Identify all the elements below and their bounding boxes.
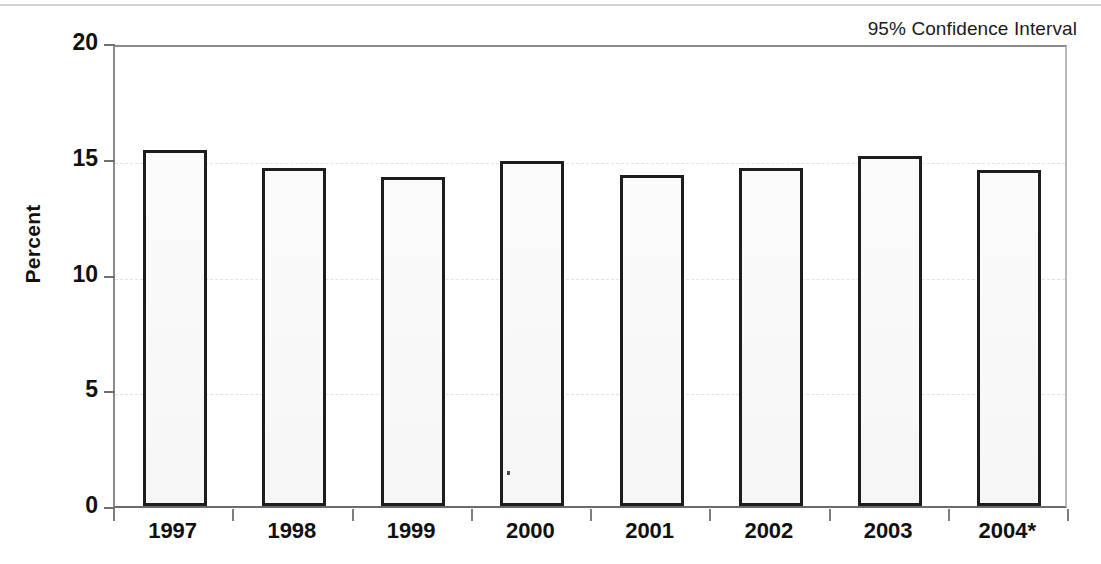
y-axis-tick-label: 20 bbox=[38, 29, 98, 56]
chart-figure: 95% Confidence Interval Percent 05101520… bbox=[0, 0, 1101, 564]
x-axis-tick-label: 2003 bbox=[829, 518, 948, 544]
y-axis-tick-label: 10 bbox=[38, 261, 98, 288]
gridline bbox=[115, 394, 1065, 396]
x-axis-tick-label: 2004* bbox=[948, 518, 1067, 544]
top-divider-rule bbox=[0, 4, 1101, 6]
x-axis-tick-label: 1999 bbox=[352, 518, 471, 544]
bar-1999 bbox=[381, 177, 445, 506]
y-axis-tick-label: 0 bbox=[38, 492, 98, 519]
y-axis-tick-mark bbox=[104, 391, 115, 393]
bar-2002 bbox=[739, 168, 803, 506]
gridline bbox=[115, 279, 1065, 281]
x-axis-tick-label: 2001 bbox=[590, 518, 709, 544]
gridline bbox=[115, 163, 1065, 165]
x-axis-tick-label: 1997 bbox=[113, 518, 232, 544]
bar-2000 bbox=[500, 161, 564, 506]
x-axis-tick-label: 2002 bbox=[709, 518, 828, 544]
y-axis-tick-label: 5 bbox=[38, 376, 98, 403]
plot-area bbox=[113, 45, 1067, 508]
scan-artifact-speck bbox=[507, 471, 510, 475]
bar-2001 bbox=[620, 175, 684, 506]
bar-2004-star bbox=[977, 170, 1041, 506]
bar-1998 bbox=[262, 168, 326, 506]
y-axis-tick-label: 15 bbox=[38, 145, 98, 172]
y-axis-tick-mark bbox=[104, 160, 115, 162]
x-axis-tick-label: 1998 bbox=[232, 518, 351, 544]
confidence-interval-legend: 95% Confidence Interval bbox=[868, 18, 1077, 40]
x-axis-tick-mark bbox=[1067, 509, 1069, 521]
bar-1997 bbox=[143, 150, 207, 507]
bar-2003 bbox=[858, 156, 922, 506]
y-axis-tick-mark bbox=[104, 276, 115, 278]
x-axis-tick-label: 2000 bbox=[471, 518, 590, 544]
y-axis-tick-mark bbox=[104, 44, 115, 46]
